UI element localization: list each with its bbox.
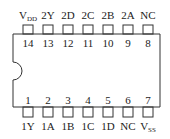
ic-pinout-diagram: VDD 2Y 2D 2C 2B 2A NC 14 13 12 11 10 9 8… [0,0,170,139]
top-pin-stubs [23,25,153,34]
pin-11-label: 2C [78,9,98,21]
pin-13-label: 2Y [38,9,58,21]
pin-8-label: NC [138,9,158,21]
pin-12-number: 12 [58,37,78,49]
pin-9-label: 2A [118,9,138,21]
pin-11-number: 11 [78,37,98,49]
pin-10-label: 2B [98,9,118,21]
pin-4-label: 1C [78,120,98,132]
bottom-pin-stubs [23,107,153,117]
pin-14-number: 14 [18,37,38,49]
pin-2-number: 2 [38,94,58,106]
pin-14-label: VDD [18,9,38,25]
pin-1-number: 1 [18,94,38,106]
pin-9-number: 9 [118,37,138,49]
pin-6-label: NC [118,120,138,132]
pin-7-label: VSS [138,120,158,136]
pin-3-number: 3 [58,94,78,106]
pin-5-number: 5 [98,94,118,106]
pin-7-number: 7 [138,94,158,106]
pin-2-label: 1A [38,120,58,132]
pin-1-label: 1Y [18,120,38,132]
pin-3-label: 1B [58,120,78,132]
pin-5-label: 1D [98,120,118,132]
pin-12-label: 2D [58,9,78,21]
pin-13-number: 13 [38,37,58,49]
pin-8-number: 8 [138,37,158,49]
pin-6-number: 6 [118,94,138,106]
pin-4-number: 4 [78,94,98,106]
pin-10-number: 10 [98,37,118,49]
